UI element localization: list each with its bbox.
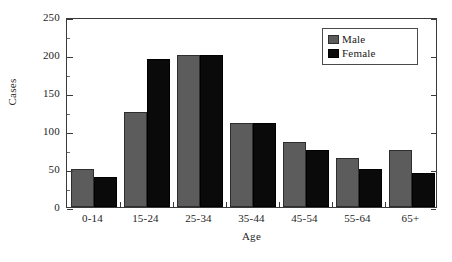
bar-male-0-14 (71, 169, 94, 207)
y-tick-label: 150 (43, 88, 60, 99)
bar-female-65+ (412, 173, 435, 207)
bar-male-45-54 (283, 142, 306, 207)
bar-female-35-44 (253, 123, 276, 207)
y-tick-label: 50 (49, 164, 60, 175)
y-tick-major-right (431, 57, 436, 58)
x-axis-tick-labels: 0-1415-2425-3435-4445-5455-6465+ (66, 212, 437, 228)
legend-swatch-male-icon (328, 35, 339, 44)
bar-male-25-34 (177, 55, 200, 207)
y-tick-minor (67, 190, 70, 191)
y-tick-major (67, 209, 73, 210)
x-tick-label: 35-44 (225, 212, 278, 224)
legend-item-male: Male (328, 32, 412, 46)
y-tick-major (67, 171, 73, 172)
bar-female-55-64 (359, 169, 382, 207)
bar-male-35-44 (230, 123, 253, 207)
x-tick (226, 202, 227, 207)
y-tick-major-right (431, 209, 436, 210)
x-tick (332, 202, 333, 207)
x-tick-label: 25-34 (172, 212, 225, 224)
y-axis-tick-labels: 050100150200250 (30, 0, 60, 262)
legend-item-female: Female (328, 46, 412, 60)
y-tick-major (67, 57, 73, 58)
x-tick-label: 45-54 (278, 212, 331, 224)
x-tick (279, 202, 280, 207)
y-tick-minor (67, 76, 70, 77)
legend-label-male: Male (342, 33, 365, 45)
legend: Male Female (322, 28, 418, 65)
legend-swatch-female-icon (328, 49, 339, 58)
y-tick-minor (67, 152, 70, 153)
bar-female-25-34 (200, 55, 223, 207)
bar-female-0-14 (94, 177, 117, 207)
y-tick-label: 250 (43, 12, 60, 23)
y-tick-major (67, 95, 73, 96)
x-tick-label: 65+ (384, 212, 437, 224)
y-tick-minor (67, 38, 70, 39)
x-tick-label: 15-24 (119, 212, 172, 224)
legend-label-female: Female (342, 47, 376, 59)
bar-female-15-24 (147, 59, 170, 207)
y-axis-title: Cases (6, 62, 18, 122)
x-tick-label: 55-64 (331, 212, 384, 224)
bar-male-15-24 (124, 112, 147, 207)
y-tick-major-right (431, 19, 436, 20)
x-tick (120, 202, 121, 207)
x-tick (173, 202, 174, 207)
y-tick-minor (67, 114, 70, 115)
y-tick-major-right (431, 171, 436, 172)
x-tick-label: 0-14 (66, 212, 119, 224)
y-tick-label: 0 (54, 202, 60, 213)
bar-chart: Cases 050100150200250 Male Female 0-1415… (0, 0, 452, 262)
x-axis-title: Age (66, 230, 437, 242)
y-tick-major-right (431, 133, 436, 134)
y-tick-label: 200 (43, 50, 60, 61)
y-tick-major-right (431, 95, 436, 96)
bar-female-45-54 (306, 150, 329, 207)
bar-male-65+ (389, 150, 412, 207)
y-tick-major (67, 19, 73, 20)
y-tick-major (67, 133, 73, 134)
bar-male-55-64 (336, 158, 359, 207)
x-tick (385, 202, 386, 207)
y-tick-label: 100 (43, 126, 60, 137)
